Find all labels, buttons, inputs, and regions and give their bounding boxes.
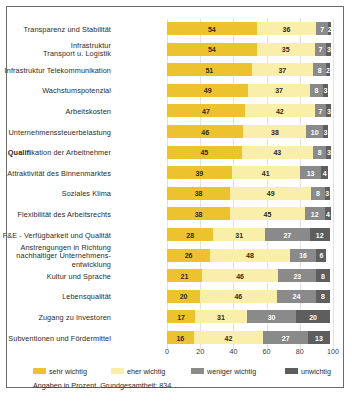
bar-segment: 38 [167,207,230,220]
category-label: Zugang zu Investoren [0,314,111,323]
bar-segment: 42 [194,331,264,344]
chart-row: Zugang zu Investoren17313020 [7,307,343,327]
chart-row: Lebensqualität2046248 [7,287,343,307]
bar-segment [330,228,333,241]
bar-value: 24 [277,293,317,300]
bar-segment [328,166,333,179]
stacked-bar: 17313020 [167,310,333,323]
bar-segment: 48 [210,249,290,262]
bar-segment: 54 [167,22,257,35]
stacked-bar: 3941134 [167,166,333,179]
axis-tick-label: 0 [165,347,169,356]
category-label: Flexibilität des Arbeitsrechts [0,211,111,220]
bar-value: 12 [310,231,330,238]
bar-segment: 6 [316,249,326,262]
bar-value: 27 [265,231,310,238]
bar-value: 27 [263,334,308,341]
bar-value: 26 [167,252,210,259]
bar-value: 8 [316,293,329,300]
chart-row: F&E - Verfügbarkeit und Qualität28312712 [7,225,343,245]
stacked-bar: 2146238 [167,269,333,282]
chart-row: Wachstumspotenzial493783 [7,81,343,101]
stacked-bar: 513782 [167,63,333,76]
bar-value: 20 [296,313,329,320]
bar-value: 38 [243,128,306,135]
bar-value: 38 [167,190,230,197]
bar-segment: 24 [277,290,317,303]
chart-row: Subventionen und Fördermittel16422713 [7,328,343,348]
bar-segment: 36 [257,22,317,35]
chart-row: Attraktivität des Binnenmarktes3941134 [7,163,343,183]
stacked-bar: 384983 [167,187,333,200]
stacked-bar: 2648166 [167,249,333,262]
bar-value: 48 [210,252,290,259]
axis-tick-label: 100 [327,347,339,356]
chart-row: Anstrengungen in Richtungnachhaltiger Un… [7,246,343,266]
chart-row: Soziales Klima384983 [7,184,343,204]
bar-segment: 46 [202,269,278,282]
bar-segment: 4 [321,166,328,179]
bar-value: 49 [230,190,311,197]
bar-segment [330,290,333,303]
bar-value: 39 [167,169,232,176]
bar-value: 31 [195,313,246,320]
bar-segment: 8 [316,269,329,282]
bar-value: 54 [167,25,257,32]
bar-segment: 41 [232,166,300,179]
bar-value: 2 [323,25,337,32]
legend-swatch [111,368,124,374]
bar-value: 42 [194,334,264,341]
legend-item: unwichtig [285,365,331,377]
bar-value: 20 [167,293,200,300]
category-label: InfrastrukturTransport u. Logistik [0,42,111,59]
bar-value: 3 [322,46,336,53]
bar-value: 36 [257,25,317,32]
stacked-bar: 543672 [167,22,333,35]
bar-value: 38 [167,210,230,217]
bar-segment [331,104,333,117]
bar-value: 45 [230,210,305,217]
chart-row: Unternehmenssteuerbelastung4638103 [7,122,343,142]
bar-value: 46 [202,272,278,279]
axis-tick-label: 80 [296,347,304,356]
stacked-bar: 493783 [167,84,333,97]
bar-segment: 54 [167,43,257,56]
legend-swatch [285,368,298,374]
chart-row: Arbeitskosten474273 [7,101,343,121]
bar-segment: 8 [316,290,329,303]
bar-value: 16 [167,334,194,341]
bar-value: 45 [167,149,242,156]
bar-segment: 4 [325,207,332,220]
category-label: Lebensqualität [0,293,111,302]
bar-segment: 37 [252,63,313,76]
bar-segment [330,310,333,323]
bar-segment [331,22,333,35]
bar-value: 54 [167,46,257,53]
bar-segment: 27 [263,331,308,344]
category-label: Soziales Klima [0,190,111,199]
bar-value: 30 [247,313,297,320]
bar-value: 6 [316,252,326,259]
bar-segment: 21 [167,269,202,282]
bar-segment: 17 [167,310,195,323]
stacked-bar: 3845124 [167,207,333,220]
bar-segment: 31 [213,228,264,241]
stacked-bar: 4638103 [167,125,333,138]
category-label: Kultur und Sprache [0,273,111,282]
stacked-bar: 543573 [167,43,333,56]
bar-segment: 49 [167,84,248,97]
bar-value: 35 [257,46,315,53]
bar-segment [330,331,333,344]
bar-segment [330,63,333,76]
bar-value: 17 [167,313,195,320]
plot-area: Transparenz und Stabilität543672Infrastr… [7,7,343,387]
bar-value: 23 [278,272,316,279]
bar-segment: 51 [167,63,252,76]
bar-segment: 37 [248,84,309,97]
category-label: Transparenz und Stabilität [0,26,111,35]
category-label: Unternehmenssteuerbelastung [0,129,111,138]
category-label: F&E - Verfügbarkeit und Qualität [0,232,111,241]
stacked-bar: 2046248 [167,290,333,303]
bar-value: 46 [167,128,243,135]
bar-value: 43 [242,149,313,156]
